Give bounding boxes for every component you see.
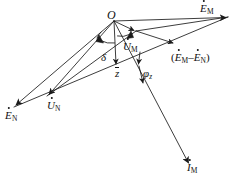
label-emf-difference: (EM–EN) bbox=[171, 52, 210, 65]
phasor-diagram-figure: O EM (EM–EN) UM δ z φz EN UN IM bbox=[0, 0, 235, 184]
label-angle-delta: δ bbox=[101, 52, 106, 63]
vector-emf-m bbox=[114, 18, 226, 22]
angle-marker-phi-upper bbox=[139, 52, 141, 64]
vector-impedance-drop bbox=[114, 21, 116, 64]
label-angle-phi: φz bbox=[143, 68, 152, 81]
label-current-m: IM bbox=[187, 162, 197, 175]
phasor-diagram-canvas bbox=[0, 0, 235, 184]
label-voltage-m: UM bbox=[123, 41, 138, 54]
label-voltage-n: UN bbox=[47, 100, 61, 113]
label-origin: O bbox=[107, 9, 116, 21]
label-impedance: z bbox=[115, 68, 119, 79]
label-emf-m: EM bbox=[200, 3, 214, 16]
angle-arc-um bbox=[118, 35, 130, 37]
vector-emf-difference-upper bbox=[136, 31, 173, 43]
vector-voltage-m bbox=[114, 21, 134, 31]
label-emf-n: EN bbox=[5, 110, 17, 123]
angle-arc-delta-head bbox=[96, 35, 104, 43]
